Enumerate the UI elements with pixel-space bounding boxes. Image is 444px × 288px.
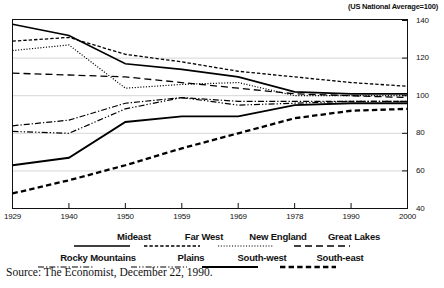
y-axis-tick-label: 120 bbox=[416, 53, 429, 62]
series-line-south-west bbox=[13, 103, 408, 165]
legend-item-south-east[interactable]: South-east bbox=[280, 252, 400, 268]
chart-figure: (US National Average=100) 40608010012014… bbox=[0, 0, 444, 288]
x-axis-tick-label: 1950 bbox=[117, 212, 134, 221]
legend-label: Great Lakes bbox=[294, 231, 414, 242]
plot-area bbox=[12, 19, 408, 209]
chart-svg bbox=[12, 19, 408, 209]
x-axis-tick-label: 1959 bbox=[173, 212, 190, 221]
legend-item-great-lakes[interactable]: Great Lakes bbox=[294, 231, 414, 247]
x-axis-tick-label: 1929 bbox=[4, 212, 21, 221]
series-line-far-west bbox=[13, 37, 408, 86]
y-axis-tick-label: 80 bbox=[416, 128, 425, 137]
x-axis-tick-label: 1940 bbox=[60, 212, 77, 221]
x-axis-tick-label: 1978 bbox=[286, 212, 303, 221]
y-axis-tick-label: 60 bbox=[416, 166, 425, 175]
x-axis-labels: 19291940195019591969197819902000 bbox=[0, 212, 444, 224]
series-line-south-east bbox=[13, 109, 408, 194]
y-axis-tick-label: 100 bbox=[416, 91, 429, 100]
series-line-new-england bbox=[13, 45, 408, 96]
y-axis-tick-label: 140 bbox=[416, 16, 429, 25]
chart-subtitle: (US National Average=100) bbox=[348, 2, 438, 11]
series-line-mideast bbox=[13, 24, 408, 94]
x-axis-tick-label: 1990 bbox=[343, 212, 360, 221]
legend-line-swatch bbox=[294, 244, 414, 247]
source-note: Source: The Economist, December 22, 1990… bbox=[6, 266, 213, 278]
x-axis-tick-label: 1969 bbox=[230, 212, 247, 221]
y-ticks bbox=[402, 21, 407, 209]
x-ticks bbox=[13, 203, 408, 208]
x-axis-tick-label: 2000 bbox=[399, 212, 416, 221]
legend-label: South-east bbox=[280, 252, 400, 263]
legend-row-1: MideastFar WestNew EnglandGreat Lakes bbox=[0, 231, 444, 253]
legend-line-swatch bbox=[280, 265, 400, 268]
series-lines bbox=[13, 24, 408, 193]
